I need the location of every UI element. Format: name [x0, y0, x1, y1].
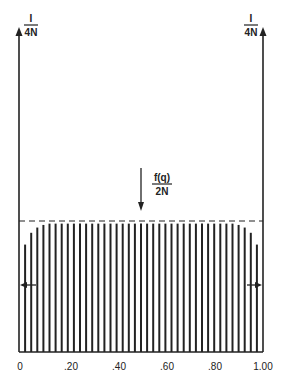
center-label-denominator: 2N — [156, 186, 169, 197]
top-right-label-numerator: I — [250, 13, 253, 24]
top-right-label-denominator: 4N — [245, 27, 258, 38]
right-axis-arrowhead-icon — [260, 27, 267, 36]
x-tick-label: .60 — [160, 361, 174, 372]
bars — [25, 224, 257, 352]
x-tick-labels: 0 .20 .40 .60 .80 1.00 — [17, 361, 273, 372]
top-left-label-numerator: I — [30, 13, 33, 24]
x-tick-label: .20 — [64, 361, 78, 372]
diagram: I 4N I 4N f(q) 2N 0 .20 .40 .60 .80 1.00 — [0, 0, 286, 383]
x-tick-label: 0 — [17, 361, 23, 372]
center-label: f(q) 2N — [152, 172, 172, 197]
center-label-numerator: f(q) — [154, 172, 170, 183]
right-edge-arrow — [247, 282, 262, 288]
left-axis-arrowhead-icon — [16, 27, 23, 36]
x-tick-label: .80 — [208, 361, 222, 372]
left-edge-arrowhead-icon — [20, 282, 27, 288]
center-arrowhead-icon — [138, 202, 144, 211]
x-tick-label: .40 — [112, 361, 126, 372]
x-tick-label: 1.00 — [253, 361, 273, 372]
top-left-label: I 4N — [24, 13, 38, 38]
left-edge-arrow — [20, 282, 36, 288]
top-left-label-denominator: 4N — [25, 27, 38, 38]
top-right-label: I 4N — [244, 13, 258, 38]
right-edge-arrowhead-icon — [255, 282, 262, 288]
